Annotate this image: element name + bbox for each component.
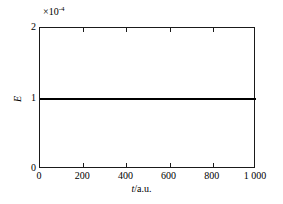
x-tick-label: 200 — [75, 171, 90, 181]
x-tick-label: 800 — [204, 171, 219, 181]
y-axis-title: E — [9, 90, 27, 108]
x-axis-title-unit: /a.u. — [134, 183, 151, 194]
y-axis-exponent-power: -4 — [59, 5, 65, 13]
data-line-segment — [40, 98, 62, 100]
data-line-segment — [83, 98, 105, 100]
data-series-layer — [40, 28, 254, 167]
x-tick-label: 400 — [118, 171, 133, 181]
figure-canvas: ×10-4 012 E 02004006008001 000 t/a.u. — [0, 0, 283, 204]
y-tick-label: 1 — [31, 93, 36, 103]
y-axis-exponent-label: ×10-4 — [43, 7, 64, 17]
data-line-segment — [126, 98, 148, 100]
data-line-segment — [62, 98, 84, 100]
data-line-segment — [105, 98, 127, 100]
x-tick-label: 600 — [161, 171, 176, 181]
x-axis-title: t/a.u. — [0, 184, 283, 194]
y-tick-label: 2 — [31, 22, 36, 32]
x-tick-label: 0 — [37, 171, 42, 181]
x-tick-label: 1 000 — [244, 171, 267, 181]
y-axis-exponent-prefix: ×10 — [43, 6, 59, 17]
data-line-segment — [170, 98, 192, 100]
data-line-segment — [191, 98, 213, 100]
data-line-segment — [213, 98, 235, 100]
data-line-segment — [234, 98, 256, 100]
data-line-segment — [148, 98, 170, 100]
plot-frame — [39, 27, 255, 168]
